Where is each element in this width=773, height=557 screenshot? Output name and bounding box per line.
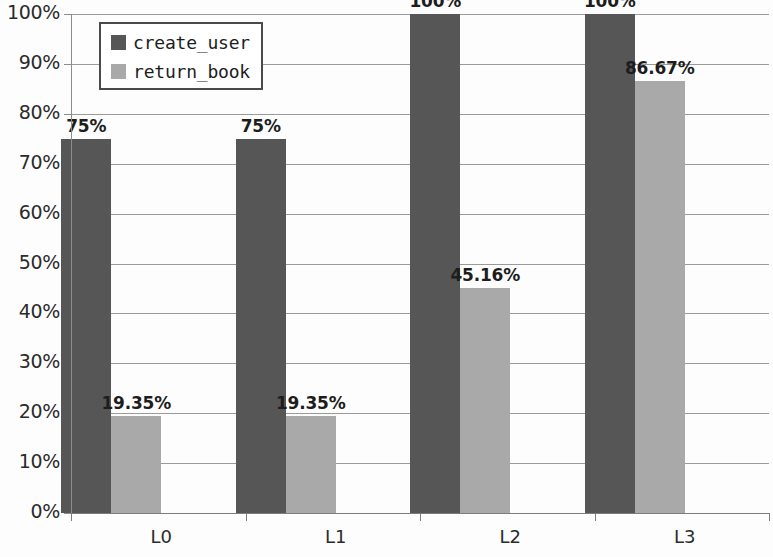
bar-l0-return-book [111, 416, 161, 513]
y-axis-tick [64, 14, 71, 15]
legend-swatch-icon-create-user [111, 35, 126, 50]
y-axis-tick [64, 64, 71, 65]
legend-item-return-book: return_book [111, 60, 250, 82]
bar-l2-create-user [410, 14, 460, 513]
legend-item-create-user: create_user [111, 31, 250, 53]
y-axis-tick-label: 10% [0, 450, 60, 472]
x-axis-tick-label-l1: L1 [291, 526, 381, 547]
bar-value-label: 19.35% [101, 393, 171, 413]
x-axis-tick [246, 513, 247, 521]
chart-legend: create_user return_book [99, 22, 263, 90]
bar-value-label: 45.16% [450, 265, 520, 285]
bar-l3-return-book [635, 81, 685, 513]
x-axis-tick-label-l0: L0 [116, 526, 206, 547]
legend-swatch-icon-return-book [111, 64, 126, 79]
x-axis-tick [769, 513, 770, 521]
y-axis-line [71, 14, 72, 514]
y-axis-tick-label: 100% [0, 1, 60, 23]
x-axis-tick [71, 513, 72, 521]
y-axis-tick [64, 114, 71, 115]
bar-value-label: 100% [409, 0, 461, 11]
x-axis-tick-label-l2: L2 [465, 526, 555, 547]
x-axis-tick [420, 513, 421, 521]
bar-value-label: 19.35% [276, 393, 346, 413]
bar-l0-create-user [61, 139, 111, 513]
y-axis-tick-label: 0% [0, 500, 60, 522]
y-axis-tick-label: 50% [0, 251, 60, 273]
bar-value-label: 100% [584, 0, 636, 11]
bar-l2-return-book [460, 288, 510, 513]
bar-l3-create-user [585, 14, 635, 513]
y-axis-tick-label: 70% [0, 151, 60, 173]
x-axis-tick-label-l3: L3 [640, 526, 730, 547]
y-axis-tick-label: 30% [0, 350, 60, 372]
x-axis-tick [595, 513, 596, 521]
bar-value-label: 75% [66, 116, 106, 136]
y-axis-tick-label: 80% [0, 101, 60, 123]
bar-value-label: 75% [241, 116, 281, 136]
y-axis-tick [64, 513, 71, 514]
y-axis-tick-label: 20% [0, 400, 60, 422]
legend-label-create-user: create_user [133, 32, 250, 53]
bar-value-label: 86.67% [625, 58, 695, 78]
y-axis-tick-label: 60% [0, 201, 60, 223]
y-axis-tick-label: 90% [0, 51, 60, 73]
bar-l1-return-book [286, 416, 336, 513]
bar-l1-create-user [236, 139, 286, 513]
y-axis-tick-label: 40% [0, 300, 60, 322]
bar-chart: 0%10%20%30%40%50%60%70%80%90%100% 75%19.… [0, 0, 773, 557]
legend-label-return-book: return_book [133, 61, 250, 82]
